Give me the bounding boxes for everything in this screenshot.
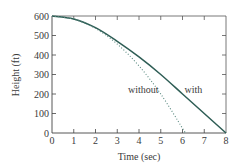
plot-frame — [52, 16, 226, 133]
x-tick-label: 7 — [202, 135, 207, 146]
x-tick-label: 2 — [93, 135, 98, 146]
y-tick-label: 500 — [34, 30, 49, 41]
x-tick-label: 1 — [71, 135, 76, 146]
x-tick-label: 3 — [115, 135, 120, 146]
y-axis-ticks: 0100200300400500600 — [34, 11, 226, 139]
y-tick-label: 400 — [34, 50, 49, 61]
series-without — [52, 16, 185, 133]
x-tick-label: 5 — [158, 135, 163, 146]
y-tick-label: 600 — [34, 11, 49, 22]
y-tick-label: 300 — [34, 69, 49, 80]
series-lines — [52, 16, 226, 133]
y-tick-label: 200 — [34, 89, 49, 100]
chart: 012345678 0100200300400500600 Time (sec)… — [0, 0, 242, 168]
series-with — [52, 16, 226, 133]
x-axis-label: Time (sec) — [118, 151, 161, 163]
x-axis-ticks: 012345678 — [50, 16, 229, 146]
curve-label-with: with — [184, 84, 202, 95]
x-tick-label: 4 — [137, 135, 142, 146]
x-tick-label: 6 — [180, 135, 185, 146]
y-axis-label: Height (ft) — [10, 54, 22, 97]
y-tick-label: 0 — [44, 128, 49, 139]
x-tick-label: 0 — [50, 135, 55, 146]
x-tick-label: 8 — [224, 135, 229, 146]
y-tick-label: 100 — [34, 108, 49, 119]
curve-labels: withoutwith — [128, 84, 202, 95]
curve-label-without: without — [128, 84, 159, 95]
